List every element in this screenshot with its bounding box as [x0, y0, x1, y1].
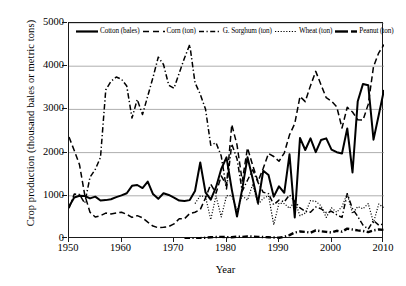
plot-svg — [69, 23, 384, 239]
legend-label: Wheat (ton) — [299, 27, 332, 36]
series-line-corn — [69, 45, 384, 228]
x-tick-label: 2010 — [361, 242, 405, 254]
dotted-line-swatch — [275, 27, 297, 36]
dashed-line-swatch — [143, 27, 165, 36]
x-tick-label: 1980 — [204, 242, 248, 254]
legend-item-peanut: Peanut (ton) — [335, 27, 393, 36]
legend-label: G. Sorghum (ton) — [223, 27, 272, 36]
legend-label: Peanut (ton) — [359, 27, 393, 36]
legend-item-sorghum: G. Sorghum (ton) — [199, 27, 272, 36]
chart-figure: Crop production (thousand bales or metri… — [0, 0, 406, 286]
x-tick-label: 1970 — [151, 242, 195, 254]
legend-label: Corn (ton) — [167, 27, 196, 36]
y-axis-tick-marks — [0, 22, 68, 238]
series-line-wheat — [195, 184, 384, 225]
x-tick-label: 1950 — [46, 242, 90, 254]
y-tick-mark — [62, 108, 67, 109]
x-tick-label: 2000 — [309, 242, 353, 254]
thick-dashdot-line-swatch — [335, 27, 357, 36]
y-tick-mark — [62, 65, 67, 66]
x-axis-title: Year — [68, 264, 383, 276]
y-tick-mark — [62, 195, 67, 196]
chart-legend: Cotton (bales) Corn (ton) G. Sorghum (to… — [76, 25, 393, 38]
legend-item-corn: Corn (ton) — [143, 27, 196, 36]
y-tick-mark — [62, 237, 67, 238]
plot-area — [68, 22, 383, 238]
x-axis-tick-labels: 1950 1960 1970 1980 1990 2000 2010 — [68, 242, 383, 256]
x-tick-label: 1960 — [99, 242, 143, 254]
series-line-g — [69, 45, 384, 229]
x-tick-label: 1990 — [256, 242, 300, 254]
y-tick-mark — [62, 152, 67, 153]
y-tick-mark — [62, 22, 67, 23]
legend-item-cotton: Cotton (bales) — [76, 27, 140, 36]
dashdot-line-swatch — [199, 27, 221, 36]
legend-item-wheat: Wheat (ton) — [275, 27, 332, 36]
solid-line-swatch — [76, 27, 98, 36]
legend-label: Cotton (bales) — [100, 27, 140, 36]
